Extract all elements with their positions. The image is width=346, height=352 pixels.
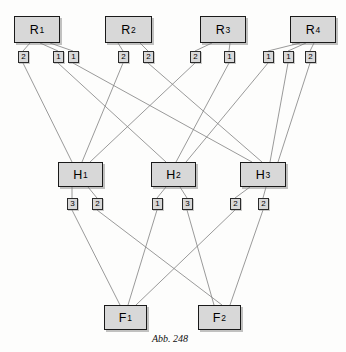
edge-weight-to-f [187,210,214,305]
edge-node-to-weight [229,43,230,51]
node-subscript: 3 [265,170,270,180]
edge-node-to-weight [23,43,30,51]
edge-weight-to-f [97,210,222,305]
weight-label-r2-h3[interactable]: 2 [143,51,154,63]
weight-label-r4-h2[interactable]: 1 [263,51,274,63]
weight-label-h3-f1[interactable]: 2 [230,198,241,210]
node-label: R [121,23,130,37]
edge-node-to-weight [50,43,73,51]
node-label: H [73,168,82,182]
node-r4[interactable]: R4 [290,16,336,43]
node-subscript: 2 [176,170,181,180]
node-subscript: 1 [39,25,44,35]
weight-label-r2-h1[interactable]: 2 [118,51,129,63]
node-label: R [216,23,225,37]
node-label: R [306,23,315,37]
edge-weight-to-node [186,63,268,162]
edge-weight-to-f [128,210,157,305]
edge-h-to-weight [157,187,166,198]
node-label: R [30,23,39,37]
node-f2[interactable]: F2 [198,305,241,330]
node-subscript: 4 [315,25,320,35]
weight-label-h3-f2[interactable]: 2 [258,198,269,210]
weight-label-h2-f1[interactable]: 1 [152,198,163,210]
edge-h-to-weight [180,187,187,198]
node-label: F [213,311,221,325]
node-subscript: 1 [127,313,132,323]
node-subscript: 3 [225,25,230,35]
weight-label-r4-h3[interactable]: 2 [305,51,316,63]
edge-weight-to-node [73,63,252,162]
node-h3[interactable]: H3 [240,162,286,187]
edge-node-to-weight [140,43,148,51]
weight-label-r4-h3[interactable]: 1 [283,51,294,63]
edge-weight-to-node [278,63,310,162]
node-r1[interactable]: R1 [14,16,60,43]
edge-weight-to-node [82,63,123,162]
edge-node-to-weight [310,43,314,51]
node-r2[interactable]: R2 [105,16,152,43]
edge-node-to-weight [40,43,58,51]
edge-weight-to-node [148,63,262,162]
edge-weight-to-node [176,63,229,162]
node-h1[interactable]: H1 [58,162,103,187]
weight-label-r3-h2[interactable]: 1 [224,51,235,63]
edge-node-to-weight [288,43,306,51]
weight-label-h1-f1[interactable]: 3 [67,198,78,210]
node-label: H [256,168,265,182]
edge-h-to-weight [263,187,266,198]
figure-caption: Abb. 248 [152,333,188,344]
node-r3[interactable]: R3 [200,16,246,43]
weight-label-r1-h1[interactable]: 2 [18,51,29,63]
weight-label-r1-h2[interactable]: 1 [53,51,64,63]
node-h2[interactable]: H2 [151,162,196,187]
edge-weight-to-node [58,63,166,162]
edge-h-to-weight [235,187,250,198]
edge-weight-to-node [270,63,288,162]
edge-weight-to-node [90,63,195,162]
edge-node-to-weight [268,43,300,51]
weight-label-r1-h3[interactable]: 1 [68,51,79,63]
edge-weight-to-node [23,63,72,162]
node-label: F [119,311,127,325]
edge-weight-to-f [72,210,120,305]
node-subscript: 2 [221,313,226,323]
node-subscript: 1 [83,170,88,180]
edge-node-to-weight [195,43,212,51]
weight-label-h1-f2[interactable]: 2 [92,198,103,210]
node-subscript: 2 [131,25,136,35]
bipartite-layer-diagram: R1R2R3R4H1H2H3F1F2 2112221112321322 Abb.… [0,0,346,352]
weight-label-r3-h1[interactable]: 2 [190,51,201,63]
edge-weight-to-f [136,210,235,305]
edge-h-to-weight [88,187,97,198]
node-f1[interactable]: F1 [104,305,147,330]
edge-node-to-weight [118,43,123,51]
weight-label-h2-f2[interactable]: 3 [182,198,193,210]
edge-weight-to-f [230,210,263,305]
node-label: H [166,168,175,182]
